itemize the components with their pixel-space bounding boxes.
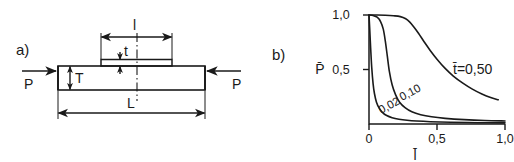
figure-container: a) P P T t bbox=[0, 0, 514, 162]
x-tick-label-0: 0 bbox=[366, 132, 373, 146]
curve-annotation-0.10: 0,10 bbox=[397, 82, 422, 103]
length-l-label: l bbox=[133, 17, 136, 33]
thickness-t-label: t bbox=[124, 43, 128, 59]
x-axis-title: l̄ bbox=[413, 147, 417, 162]
y-axis-title: P̄ bbox=[315, 61, 324, 77]
y-tick-label-1: 1,0 bbox=[332, 8, 349, 22]
load-label-left: P bbox=[24, 76, 33, 92]
panel-b-tag: b) bbox=[272, 46, 285, 63]
curve-t-0.50 bbox=[369, 15, 498, 100]
load-vs-length-chart-svg: b) 1,0 0,5 0 0,5 1,0 P̄ l̄ bbox=[257, 0, 514, 162]
thickness-T-label: T bbox=[75, 70, 84, 86]
y-tick-label-0.5: 0,5 bbox=[332, 63, 349, 77]
panel-a-tag: a) bbox=[16, 41, 29, 58]
x-tick-label-0.5: 0,5 bbox=[428, 132, 445, 146]
load-label-right: P bbox=[232, 76, 241, 92]
panel-b-chart: b) 1,0 0,5 0 0,5 1,0 P̄ l̄ bbox=[257, 0, 514, 162]
panel-a-diagram: a) P P T t bbox=[0, 0, 257, 162]
x-tick-label-1: 1,0 bbox=[496, 132, 513, 146]
bar-diagram-svg: a) P P T t bbox=[0, 0, 257, 162]
curve-annotation-0.50: t̄=0,50 bbox=[453, 61, 493, 77]
length-L-label: L bbox=[127, 95, 135, 111]
